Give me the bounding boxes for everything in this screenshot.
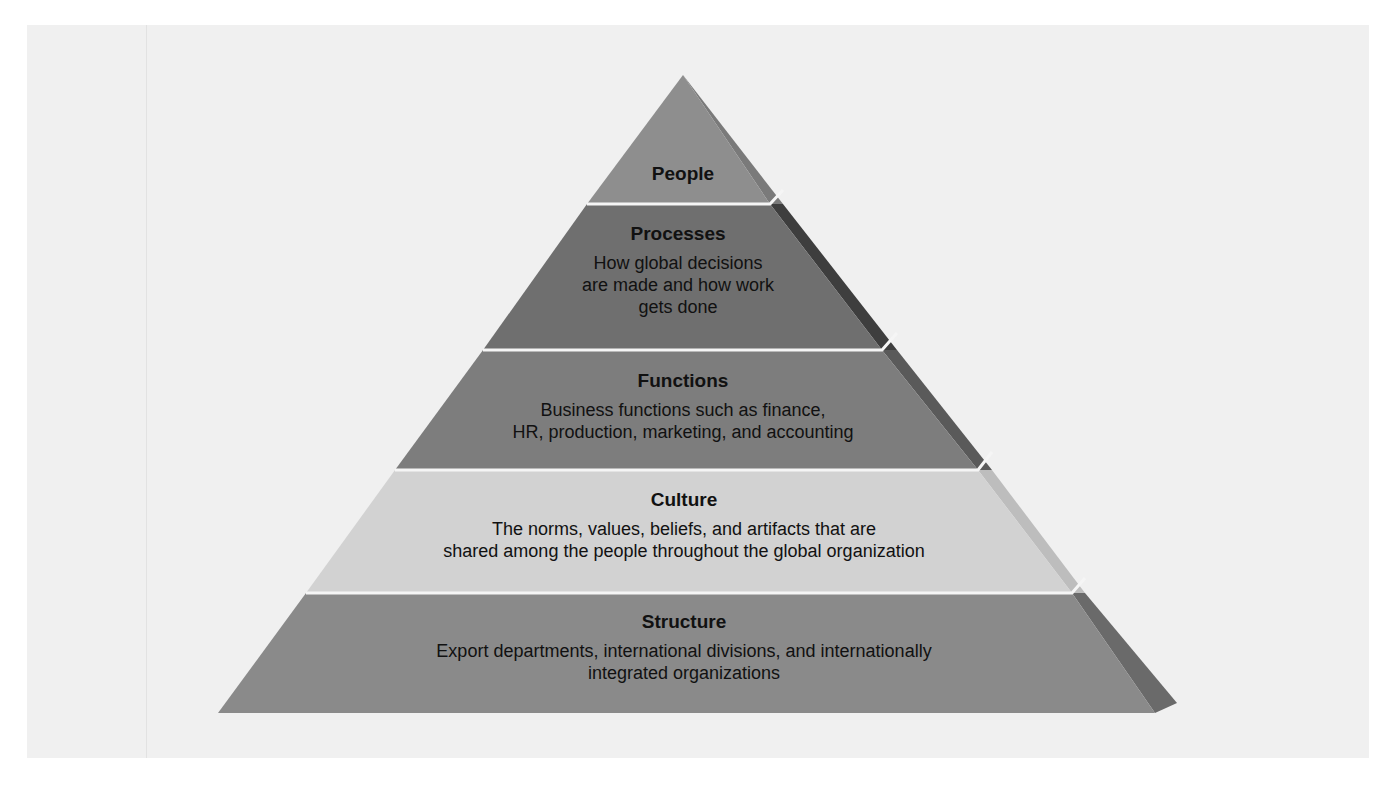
functions-title: Functions	[512, 369, 853, 393]
culture-label: Culture The norms, values, beliefs, and …	[443, 488, 924, 562]
culture-title: Culture	[443, 488, 924, 512]
functions-description: Business functions such as finance, HR, …	[512, 399, 853, 443]
processes-title: Processes	[582, 222, 774, 246]
processes-label: Processes How global decisions are made …	[582, 222, 774, 318]
culture-description: The norms, values, beliefs, and artifact…	[443, 518, 924, 562]
people-title: People	[652, 162, 714, 186]
structure-label: Structure Export departments, internatio…	[436, 610, 931, 684]
structure-title: Structure	[436, 610, 931, 634]
functions-label: Functions Business functions such as fin…	[512, 369, 853, 443]
processes-description: How global decisions are made and how wo…	[582, 252, 774, 318]
structure-description: Export departments, international divisi…	[436, 640, 931, 684]
people-label: People	[652, 162, 714, 186]
